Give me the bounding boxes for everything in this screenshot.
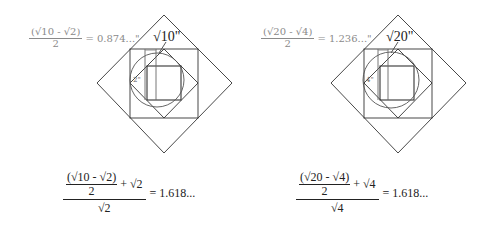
right-formula-denominator: √4 — [331, 200, 344, 216]
left-angle-label: 2" — [133, 76, 141, 84]
left-formula-denominator: √2 — [98, 200, 111, 216]
left-formula-plus-term: + √2 — [120, 177, 142, 192]
left-formula-inner-numerator: (√10 - √2) — [66, 171, 117, 185]
left-formula-result: = 1.618... — [150, 186, 196, 201]
right-outer-square — [364, 49, 432, 118]
right-top-label: (√20 - √4) 2 = 1.236..." — [261, 27, 372, 49]
left-inner-square — [147, 66, 181, 100]
right-inner-diamond — [364, 49, 432, 118]
left-formula-inner-denominator: 2 — [89, 185, 95, 198]
left-top-result: = 0.874..." — [85, 33, 139, 44]
right-inner-square — [380, 66, 414, 100]
right-angle-label: 4" — [366, 76, 374, 84]
right-formula-result: = 1.618... — [383, 186, 429, 201]
right-top-numerator: (√20 - √4) — [261, 27, 314, 39]
left-top-label: (√10 - √2) 2 = 0.874..." — [29, 27, 140, 49]
right-formula-inner-numerator: (√20 - √4) — [299, 171, 350, 185]
left-side-label: √10" — [153, 29, 180, 45]
left-golden-ratio-formula: (√10 - √2) 2 + √2 √2 = 1.618... — [63, 171, 195, 216]
left-top-denominator: 2 — [53, 39, 59, 50]
right-top-result: = 1.236..." — [317, 33, 371, 44]
right-formula-plus-term: + √4 — [353, 177, 375, 192]
right-top-denominator: 2 — [285, 39, 291, 50]
left-top-numerator: (√10 - √2) — [29, 27, 82, 39]
right-side-label: √20" — [386, 29, 413, 45]
right-golden-ratio-formula: (√20 - √4) 2 + √4 √4 = 1.618... — [296, 171, 428, 216]
right-formula-inner-denominator: 2 — [322, 185, 328, 198]
